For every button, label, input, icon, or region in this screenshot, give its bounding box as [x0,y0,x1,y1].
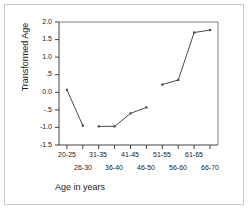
data-line-segment-b [99,107,147,126]
y-tick-label: -1.0 [24,123,52,130]
x-tick-label: 61-65 [176,151,212,158]
chart-screenshot: 2.0 1.5 1.0 .5 0.0 -.5 -1.0 -1.5 20-25 3… [0,0,248,210]
x-tick-label: 66-70 [192,164,228,171]
x-tick-label: 51-55 [144,151,180,158]
line-chart-svg [0,0,248,210]
x-tick-label: 36-40 [96,164,132,171]
data-line-segment-a [67,90,83,126]
data-point-marker [129,112,131,114]
y-axis-ticks [55,22,59,145]
y-tick-label: -1.5 [24,141,52,148]
data-point-marker [145,106,147,108]
x-tick-label: 56-60 [160,164,196,171]
data-point-marker [66,89,68,91]
x-tick-label: 46-50 [128,164,164,171]
data-series [67,30,210,126]
chart-plot-area: 2.0 1.5 1.0 .5 0.0 -.5 -1.0 -1.5 20-25 3… [0,0,248,210]
data-point-marker [193,31,195,33]
x-axis-ticks [67,145,210,149]
data-point-marker [114,125,116,127]
x-axis-title: Age in years [55,182,175,192]
x-tick-label: 31-35 [80,151,116,158]
data-line-segment-c [162,30,210,84]
data-point-marker [82,125,84,127]
data-point-marker [177,79,179,81]
data-markers [66,29,211,127]
x-tick-label: 41-45 [112,151,148,158]
data-point-marker [98,125,100,127]
data-point-marker [209,29,211,31]
data-point-marker [161,83,163,85]
y-axis-title: Transformed Age [20,2,30,112]
